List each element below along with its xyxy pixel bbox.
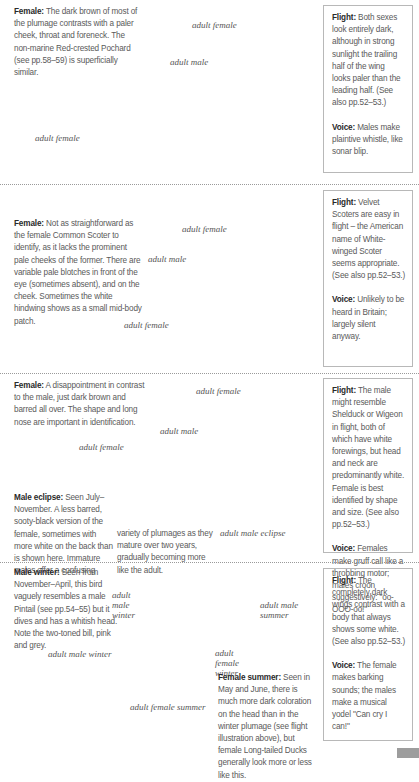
voice-note: Voice: Unlikely to be heard in Britain; … bbox=[332, 294, 405, 343]
section-divider bbox=[0, 373, 419, 374]
caption-flight-male-winter: adult male winter bbox=[112, 590, 146, 620]
female-description: Female: The dark brown of most of the pl… bbox=[14, 6, 142, 79]
caption-flight-female: adult female bbox=[192, 20, 237, 30]
sidebar-box-velvet-scoter: Flight: Velvet Scoters are easy in fligh… bbox=[323, 190, 413, 367]
page-edge-tab bbox=[397, 748, 419, 758]
caption-swim-female-summer: adult female summer bbox=[130, 702, 206, 712]
male-eclipse-description: Male eclipse: Seen July–November. A less… bbox=[14, 492, 114, 577]
voice-note: Voice: Males make plaintive whistle, lik… bbox=[332, 122, 405, 159]
caption-swim-female: adult female bbox=[35, 133, 80, 143]
male-winter-description: Male winter: Seen from November–April, t… bbox=[14, 567, 119, 652]
caption-flight-male: adult male bbox=[160, 426, 198, 436]
female-description: Female: A disappointment in contrast to … bbox=[14, 380, 149, 429]
voice-note: Voice: The female makes barking sounds; … bbox=[332, 660, 405, 733]
caption-swim-male-winter: adult male winter bbox=[48, 649, 112, 659]
caption-flight-male: adult male bbox=[170, 57, 208, 67]
section-divider bbox=[0, 184, 419, 185]
female-description: Female: Not as straightforward as the fe… bbox=[14, 218, 142, 328]
female-summer-description: Female summer: Seen in May and June, the… bbox=[218, 672, 314, 782]
sidebar-box-eider: Flight: The male might resemble Shelduck… bbox=[323, 378, 413, 553]
flight-note: Flight: The male might resemble Shelduck… bbox=[332, 385, 405, 531]
caption-swim-female: adult female bbox=[79, 442, 124, 452]
caption-flight-female: adult female bbox=[196, 386, 241, 396]
caption-swim-eclipse: adult male eclipse bbox=[220, 528, 285, 538]
caption-swim-female: adult female bbox=[124, 320, 169, 330]
section-divider bbox=[0, 562, 419, 563]
sidebar-box-common-scoter: Flight: Both sexes look entirely dark, a… bbox=[323, 5, 413, 173]
male-eclipse-description-cont: variety of plumages as they mature over … bbox=[117, 528, 217, 577]
sidebar-box-long-tailed-duck: Flight: The completely dark wings contra… bbox=[323, 568, 413, 741]
caption-flight-male: adult male bbox=[148, 254, 186, 264]
flight-note: Flight: Both sexes look entirely dark, a… bbox=[332, 12, 405, 110]
caption-flight-female: adult female bbox=[182, 224, 227, 234]
flight-note: Flight: The completely dark wings contra… bbox=[332, 575, 405, 648]
caption-flight-male-summer: adult male summer bbox=[260, 600, 300, 620]
flight-note: Flight: Velvet Scoters are easy in fligh… bbox=[332, 197, 405, 282]
